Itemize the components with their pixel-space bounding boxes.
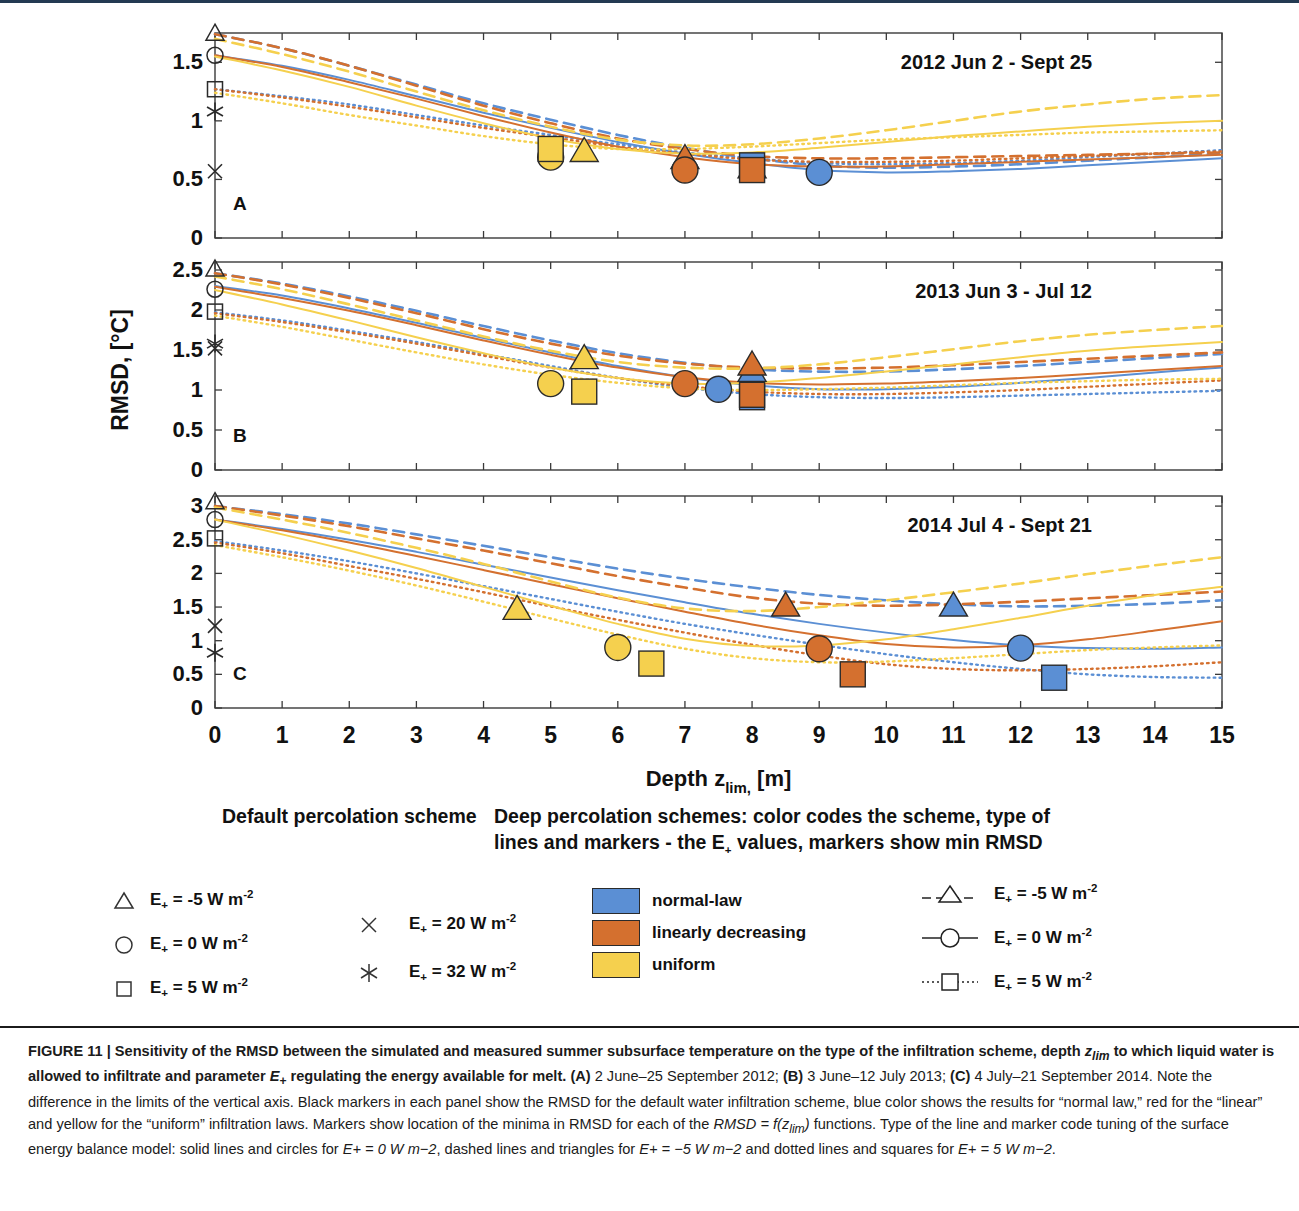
x-tick-label: 2: [343, 722, 356, 748]
min-marker-circle: [806, 636, 832, 662]
legend-right-heading-line2: lines and markers - the E+ values, marke…: [494, 831, 1184, 856]
y-tick-label: 0.5: [172, 661, 203, 686]
figure-caption: FIGURE 11 | Sensitivity of the RMSD betw…: [28, 1040, 1276, 1161]
y-tick-label: 1.5: [172, 49, 203, 74]
min-marker-circle: [806, 159, 832, 185]
color-swatch-normal-law: [592, 888, 640, 914]
legend-style-label-1: E+ = 0 W m-2: [994, 926, 1092, 949]
color-swatch-linearly-decreasing: [592, 920, 640, 946]
x-tick-label: 0: [209, 722, 222, 748]
x-tick-label: 12: [1008, 722, 1034, 748]
legend-right-heading-line1: Deep percolation schemes: color codes th…: [494, 805, 1184, 828]
series-line: [215, 545, 1222, 662]
y-tick-label: 0: [191, 225, 203, 250]
legend-item-default-col2-0: E+ = 20 W m-2: [355, 900, 516, 948]
rmsd-chart: 00.511.5A2012 Jun 2 - Sept 2500.511.522.…: [0, 0, 1299, 800]
x-tick-label: 3: [410, 722, 423, 748]
y-tick-label: 1: [191, 377, 203, 402]
legend-default-col1: E+ = -5 W m-2 E+ = 0 W m-2: [110, 878, 253, 1010]
x-tick-label: 8: [746, 722, 759, 748]
min-marker-square: [538, 136, 563, 161]
min-marker-circle: [1008, 635, 1034, 661]
panel-C: 00.511.522.53C2014 Jul 4 - Sept 21: [172, 493, 1222, 720]
x-axis-title: Depth zlim, [m]: [646, 766, 792, 796]
x-tick-label: 13: [1075, 722, 1101, 748]
panel-title-B: 2013 Jun 3 - Jul 12: [915, 280, 1092, 302]
y-tick-label: 1.5: [172, 594, 203, 619]
legend-style-label-0: E+ = -5 W m-2: [994, 882, 1097, 905]
legend-item-default-1: E+ = 0 W m-2: [110, 922, 253, 966]
y-tick-label: 2: [191, 297, 203, 322]
square-open-marker: [110, 975, 138, 1001]
min-marker-triangle: [738, 351, 766, 375]
legend-left-heading: Default percolation scheme: [222, 805, 477, 828]
min-marker-circle: [538, 371, 564, 397]
x-axis-title-post: [m]: [751, 766, 791, 791]
series-line: [215, 89, 1222, 162]
min-marker-square: [1042, 665, 1067, 690]
series-line: [215, 93, 1222, 150]
default-marker-asterisk: [207, 102, 223, 120]
y-tick-label: 2: [191, 560, 203, 585]
y-tick-label: 1: [191, 108, 203, 133]
legend-style-2: E+ = 5 W m-2: [920, 960, 1097, 1004]
min-marker-square: [740, 158, 765, 183]
caption-figure-label: FIGURE 11 |: [28, 1043, 111, 1059]
x-axis-title-pre: Depth z: [646, 766, 725, 791]
y-axis-title: RMSD, [°C]: [107, 309, 133, 431]
panel-title-A: 2012 Jun 2 - Sept 25: [901, 51, 1092, 73]
legend-default-label-2: E+ = 5 W m-2: [150, 976, 248, 999]
y-tick-label: 0: [191, 695, 203, 720]
min-marker-square: [840, 662, 865, 687]
legend-style-label-2: E+ = 5 W m-2: [994, 970, 1092, 993]
default-marker-asterisk: [207, 644, 223, 662]
y-tick-label: 0: [191, 457, 203, 482]
plots-container: 00.511.5A2012 Jun 2 - Sept 2500.511.522.…: [0, 0, 1299, 800]
y-tick-label: 0.5: [172, 417, 203, 442]
dashed-line-triangle-marker: [920, 881, 982, 907]
min-marker-square: [572, 379, 597, 404]
y-tick-label: 1: [191, 628, 203, 653]
x-tick-label: 15: [1209, 722, 1235, 748]
panel-A: 00.511.5A2012 Jun 2 - Sept 25: [172, 24, 1222, 250]
legend-right-heading: Deep percolation schemes: color codes th…: [494, 805, 1184, 856]
figure-legend: Default percolation scheme Deep percolat…: [0, 800, 1299, 1030]
panel-title-C: 2014 Jul 4 - Sept 21: [907, 514, 1092, 536]
min-marker-square: [639, 651, 664, 676]
legend-default-col2-label-1: E+ = 32 W m-2: [409, 960, 516, 983]
min-marker-circle: [706, 376, 732, 402]
y-tick-label: 1.5: [172, 337, 203, 362]
legend-item-default-col2-1: E+ = 32 W m-2: [355, 948, 516, 996]
x-tick-label: 9: [813, 722, 826, 748]
min-marker-circle: [672, 157, 698, 183]
legend-scheme-colors: normal-law linearly decreasing uniform: [592, 885, 806, 981]
panel-letter-A: A: [233, 193, 247, 214]
x-tick-label: 1: [276, 722, 289, 748]
dotted-line-square-marker: [920, 969, 982, 995]
cross-marker: [355, 911, 383, 937]
x-axis-title-sub: lim,: [725, 779, 751, 796]
panel-B: 00.511.522.5B2013 Jun 3 - Jul 12: [172, 257, 1222, 482]
x-tick-label: 14: [1142, 722, 1168, 748]
legend-default-label-0: E+ = -5 W m-2: [150, 888, 253, 911]
legend-style-1: E+ = 0 W m-2: [920, 916, 1097, 960]
legend-scheme-label-2: uniform: [652, 955, 715, 975]
panel-letter-B: B: [233, 425, 247, 446]
panel-letter-C: C: [233, 663, 247, 684]
color-swatch-uniform: [592, 952, 640, 978]
asterisk-marker: [355, 959, 383, 985]
y-tick-label: 2.5: [172, 527, 203, 552]
x-tick-label: 6: [611, 722, 624, 748]
x-tick-label: 5: [544, 722, 557, 748]
legend-scheme-0: normal-law: [592, 885, 806, 917]
x-tick-label: 4: [477, 722, 490, 748]
circle-open-marker: [110, 931, 138, 957]
legend-scheme-1: linearly decreasing: [592, 917, 806, 949]
legend-item-default-2: E+ = 5 W m-2: [110, 966, 253, 1010]
caption-divider: [0, 1026, 1299, 1028]
legend-scheme-2: uniform: [592, 949, 806, 981]
solid-line-circle-marker: [920, 925, 982, 951]
legend-default-col2: E+ = 20 W m-2 E+ = 32 W m-2: [355, 900, 516, 996]
legend-line-styles: E+ = -5 W m-2 E+ = 0 W m-2: [920, 872, 1097, 1004]
min-marker-triangle: [772, 592, 800, 616]
